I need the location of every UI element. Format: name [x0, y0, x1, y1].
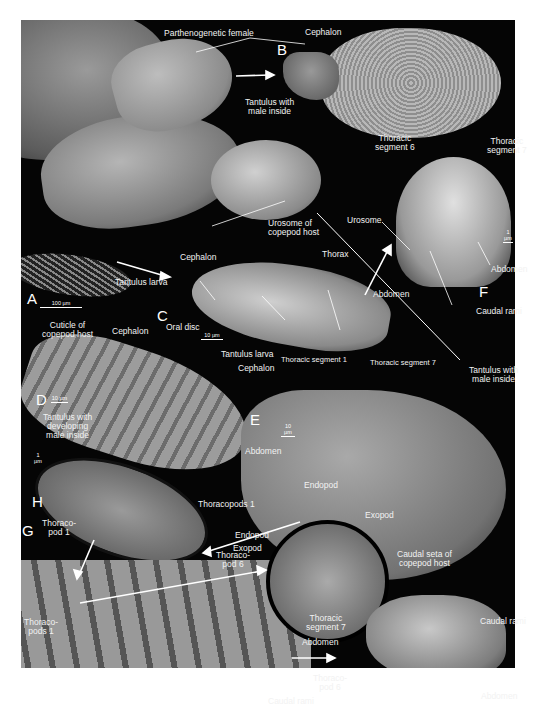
label-parthenogenetic-female: Parthenogenetic female — [164, 29, 254, 38]
scale-bar-c: 10 µm — [201, 332, 223, 340]
label-caudal-rami-j: Caudal rami — [480, 617, 526, 626]
label-abdomen-d: Abdomen — [245, 447, 281, 456]
parthenogenetic-female-b — [321, 28, 501, 138]
scale-bar-h: 1 µm — [33, 452, 43, 464]
label-caudal-rami-g: Caudal rami — [268, 697, 314, 706]
label-cephalon-e: Cephalon — [238, 364, 274, 373]
scale-bar-j: 1 µm — [403, 678, 415, 692]
scale-bar-f: 1 µm — [503, 229, 513, 243]
setae-bundle-a — [21, 247, 133, 303]
label-urosome-host: Urosome ofcopepod host — [268, 219, 319, 237]
label-thoracic-seg7-c: Thoracic segment 7 — [370, 358, 436, 367]
panel-letter-d: D — [36, 392, 47, 407]
label-caudal-rami-f: Caudal rami — [476, 307, 522, 316]
label-caudal-seta-host: Caudal seta ofcopepod host — [397, 550, 452, 568]
figure-plate — [21, 20, 515, 668]
cephalon-b-shape — [283, 52, 339, 100]
label-thoracic-seg7-j: Thoracicsegment 7 — [306, 614, 346, 632]
label-tantulus-developing: Tantulus withdevelopingmale inside — [43, 413, 92, 440]
label-cephalon-b: Cephalon — [305, 28, 341, 37]
label-abdomen-g: Abdomen — [302, 638, 338, 647]
label-thorax-c: Thorax — [322, 250, 348, 259]
label-cephalon-d: Cephalon — [112, 327, 148, 336]
label-cuticle-host: Cuticle ofcopepod host — [42, 321, 93, 339]
label-oral-disc: Oral disc — [166, 323, 200, 332]
panel-letter-b: B — [277, 42, 287, 57]
tantulus-larva-c — [186, 248, 397, 362]
label-thoracic-seg6-f: Thoracicsegment 6 — [375, 134, 415, 152]
label-abdomen-f: Abdomen — [491, 265, 527, 274]
label-endopod-top: Endopod — [304, 481, 338, 490]
scale-bar-g: 10 µm — [29, 672, 67, 680]
label-thoracopod6-g: Thoraco-pod 6 — [216, 551, 250, 569]
label-thoracic-seg1-c: Thoracic segment 1 — [281, 355, 347, 364]
label-thoracic-seg7-f: Thoracicsegment 7 — [487, 137, 527, 155]
label-tantulus-male-inside-e: Tantulus withmale inside — [469, 366, 518, 384]
panel-letter-h: H — [32, 494, 43, 509]
panel-letter-j: J — [352, 683, 359, 698]
label-tantulus-larva-c: Tantulus larva — [221, 350, 273, 359]
panel-letter-c: C — [157, 308, 168, 323]
label-thoracopod6-j: Thoraco-pod 6 — [313, 674, 347, 692]
label-exopod-right: Exopod — [365, 511, 394, 520]
label-thoracopods1-i: Thoracopods 1 — [198, 500, 255, 509]
label-tantulus-male-inside-a: Tantulus withmale inside — [245, 98, 294, 116]
panel-letter-e: E — [250, 412, 260, 427]
label-thoracopods1-g: Thoraco-pods 1 — [24, 618, 58, 636]
tantulus-sac-a — [211, 140, 321, 220]
scale-bar-d: 10 µm — [51, 395, 68, 403]
label-thoracopod1-h: Thoraco-pod 1 — [42, 519, 76, 537]
label-abdomen-j: Abdomen — [481, 692, 517, 701]
panel-letter-a: A — [27, 291, 37, 306]
specimen-j — [366, 595, 506, 668]
scale-bar-e: 10 µm — [281, 423, 295, 437]
label-abdomen-c: Abdomen — [373, 290, 409, 299]
label-endopod-mid: Endopod — [235, 531, 269, 540]
panel-letter-g: G — [22, 523, 34, 538]
scale-bar-a: 100 µm — [40, 300, 82, 308]
label-urosome-f: Urosome — [347, 216, 381, 225]
panel-letter-f: F — [479, 284, 488, 299]
label-tantulus-larva-a: Tantulus larva — [115, 278, 167, 287]
label-cephalon-c: Cephalon — [180, 253, 216, 262]
